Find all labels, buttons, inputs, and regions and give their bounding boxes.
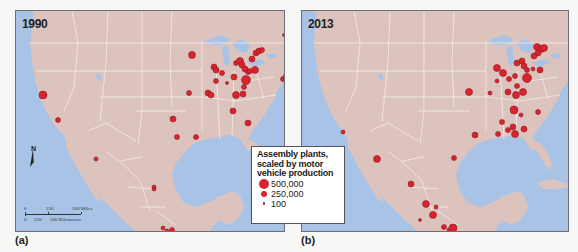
legend-label: 500,000 (271, 179, 304, 189)
plant-marker (187, 91, 192, 96)
plant-marker (94, 157, 98, 161)
caption-b: (b) (301, 234, 315, 246)
plant-marker (189, 52, 196, 59)
plant-marker (523, 74, 532, 83)
plant-marker (525, 68, 530, 73)
plant-marker (442, 225, 447, 230)
plant-marker (419, 219, 422, 222)
plant-marker (449, 224, 457, 231)
plant-marker (541, 45, 548, 52)
plant-marker (220, 71, 225, 76)
plant-marker (513, 92, 520, 99)
plant-marker (161, 226, 165, 230)
plant-marker (170, 116, 176, 122)
plant-marker (39, 91, 47, 99)
scale-bar: 0 250 500 Miles 0 250 500 Kilometers (24, 206, 114, 228)
small-circle-icon (263, 202, 266, 205)
land (314, 11, 568, 231)
map-panel-1990: 1990 N 0 250 500 Miles 0 250 500 Kilomet… (15, 10, 285, 232)
map-year-label: 2013 (308, 17, 334, 31)
plant-marker (488, 91, 492, 95)
plant-marker (531, 53, 537, 59)
scale-line (25, 214, 81, 215)
plant-marker (245, 120, 251, 126)
legend-title: Assembly plants, scaled by motor vehicle… (257, 150, 339, 179)
plant-marker (242, 85, 247, 90)
plant-marker (500, 70, 507, 77)
plant-marker (513, 74, 518, 79)
large-circle-icon (259, 179, 269, 189)
caption-a: (a) (15, 234, 28, 246)
plant-marker (230, 108, 236, 114)
plant-marker (452, 156, 457, 161)
scale-km-0: 0 (24, 217, 27, 222)
plant-marker (213, 67, 219, 73)
plant-marker (495, 79, 499, 83)
scale-miles-500: 500 Miles (72, 206, 92, 211)
plant-marker (56, 118, 61, 123)
plant-marker (165, 229, 169, 231)
plant-marker (510, 124, 516, 130)
plant-marker (242, 76, 251, 85)
plant-marker (233, 92, 240, 99)
plant-marker (521, 126, 527, 132)
plant-marker (208, 92, 214, 98)
scale-miles-250: 250 (46, 206, 54, 211)
plant-marker (472, 132, 478, 138)
map-1990-svg (16, 11, 284, 231)
medium-circle-icon (261, 191, 267, 197)
plant-marker (506, 128, 511, 133)
plant-marker (466, 89, 473, 96)
plant-marker (423, 201, 430, 208)
plant-marker (537, 67, 543, 73)
plant-marker (260, 48, 265, 53)
plant-marker (536, 110, 541, 115)
plant-marker (408, 181, 414, 187)
plant-marker (374, 156, 381, 163)
plant-marker (505, 89, 511, 95)
plant-marker (231, 74, 237, 80)
plant-marker (519, 113, 523, 117)
plant-marker (283, 34, 285, 37)
legend-item-250000: 250,000 (257, 189, 339, 199)
scale-km-500: 500 Kilometers (50, 217, 81, 222)
north-arrow: N (27, 149, 36, 152)
legend-title-line-3: vehicle production (257, 169, 339, 179)
plant-marker (240, 91, 246, 97)
legend-item-500000: 500,000 (257, 179, 339, 189)
north-arrow-icon (27, 149, 39, 171)
legend-label: 250,000 (271, 189, 304, 199)
plant-marker (515, 84, 520, 89)
plant-marker (510, 106, 518, 114)
plant-marker (507, 77, 512, 82)
plant-marker (152, 187, 156, 191)
legend-label: 100 (271, 199, 286, 209)
plant-marker (249, 56, 255, 62)
legend-item-100: 100 (257, 199, 339, 209)
plant-marker (252, 67, 259, 74)
plant-marker (434, 205, 438, 209)
plant-marker (226, 82, 229, 85)
plant-marker (500, 120, 505, 125)
plant-marker (214, 79, 219, 84)
plant-marker (170, 228, 175, 232)
plant-marker (281, 77, 285, 82)
plant-marker (496, 132, 501, 137)
plant-marker (520, 89, 527, 96)
plant-marker (512, 131, 519, 138)
plant-marker (341, 130, 345, 134)
plant-marker (531, 67, 535, 71)
plant-marker (175, 135, 180, 140)
plant-marker (430, 212, 437, 219)
scale-km-250: 250 (34, 217, 42, 222)
plant-marker (494, 65, 501, 72)
map-legend: Assembly plants, scaled by motor vehicle… (251, 146, 345, 224)
map-year-label: 1990 (22, 17, 48, 31)
plant-marker (194, 135, 199, 140)
scale-miles-0: 0 (24, 206, 27, 211)
